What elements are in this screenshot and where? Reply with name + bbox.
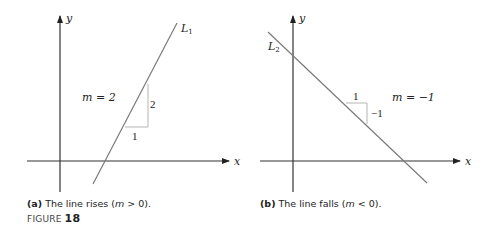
- figure-prefix: FIGURE: [27, 214, 65, 224]
- caption-b-tag: (b): [260, 198, 275, 209]
- y-axis-label: y: [298, 12, 306, 25]
- figure-diagram: x y L1 2 1 m = 2 x y L2 1 −1 m = −1: [0, 0, 495, 227]
- panel-b: x y L2 1 −1 m = −1: [260, 12, 472, 192]
- line-l2-subscript: 2: [275, 46, 279, 54]
- caption-a-text-end: > 0).: [124, 198, 151, 209]
- panel-a: x y L1 2 1 m = 2: [27, 12, 241, 192]
- caption-b-text-end: < 0).: [355, 198, 382, 209]
- caption-b-m: m: [345, 198, 354, 209]
- rise-label: 2: [150, 98, 156, 110]
- slope-triangle-a: [125, 84, 148, 127]
- slope-triangle-b: [346, 103, 367, 124]
- caption-a-text: The line rises (: [42, 198, 115, 209]
- line-l2: [268, 32, 427, 183]
- caption-a-m: m: [115, 198, 124, 209]
- caption-a: (a) The line rises (m > 0).: [27, 198, 151, 209]
- slope-label: m = 2: [82, 91, 116, 104]
- line-l1-subscript: 1: [188, 28, 192, 36]
- y-axis-label: y: [65, 12, 73, 25]
- caption-b-text: The line falls (: [275, 198, 345, 209]
- slope-label: m = −1: [392, 91, 435, 104]
- run-label: 1: [353, 90, 359, 102]
- caption-b: (b) The line falls (m < 0).: [260, 198, 382, 209]
- x-axis-label: x: [465, 155, 472, 168]
- x-axis-label: x: [234, 155, 241, 168]
- caption-a-tag: (a): [27, 198, 42, 209]
- line-l1-label: L1: [180, 22, 193, 36]
- figure-label: FIGURE 18: [27, 212, 80, 225]
- rise-label: −1: [371, 107, 383, 119]
- figure-number: 18: [65, 212, 81, 225]
- run-label: 1: [132, 130, 138, 142]
